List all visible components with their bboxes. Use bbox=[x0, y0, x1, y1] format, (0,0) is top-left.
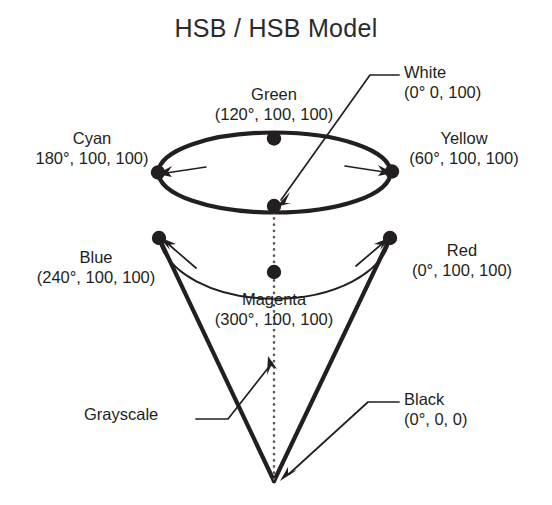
label-magenta-coords: (300°, 100, 100) bbox=[215, 309, 334, 329]
label-blue-name: Blue bbox=[37, 247, 156, 267]
label-green-coords: (120°, 100, 100) bbox=[215, 104, 334, 124]
grayscale-arrowhead bbox=[267, 356, 277, 375]
point-blue bbox=[152, 231, 166, 245]
label-magenta: Magenta (300°, 100, 100) bbox=[215, 289, 334, 329]
white-arrowhead bbox=[276, 192, 291, 207]
label-black: Black (0°, 0, 0) bbox=[404, 389, 467, 429]
label-black-name: Black bbox=[404, 389, 467, 409]
label-cyan: Cyan 180°, 100, 100) bbox=[35, 128, 148, 168]
label-yellow: Yellow (60°, 100, 100) bbox=[409, 128, 518, 168]
label-cyan-coords: 180°, 100, 100) bbox=[35, 148, 148, 168]
label-cyan-name: Cyan bbox=[35, 128, 148, 148]
cone-right-edge bbox=[274, 238, 390, 481]
grayscale-leader-line bbox=[196, 363, 272, 419]
label-grayscale: Grayscale bbox=[84, 404, 158, 424]
label-white: White (0° 0, 100) bbox=[404, 62, 481, 102]
point-magenta bbox=[267, 265, 281, 279]
label-magenta-name: Magenta bbox=[215, 289, 334, 309]
label-yellow-name: Yellow bbox=[409, 128, 518, 148]
label-blue-coords: (240°, 100, 100) bbox=[37, 267, 156, 287]
label-black-coords: (0°, 0, 0) bbox=[404, 409, 467, 429]
label-white-name: White bbox=[404, 62, 481, 82]
label-green: Green (120°, 100, 100) bbox=[215, 84, 334, 124]
hsb-cone-diagram: HSB / HSB Model bbox=[0, 0, 552, 505]
label-white-coords: (0° 0, 100) bbox=[404, 82, 481, 102]
cyan-leader-line bbox=[166, 167, 206, 173]
label-yellow-coords: (60°, 100, 100) bbox=[409, 148, 518, 168]
cone-left-edge bbox=[159, 238, 274, 481]
label-blue: Blue (240°, 100, 100) bbox=[37, 247, 156, 287]
yellow-leader-line bbox=[345, 166, 384, 172]
label-red-name: Red bbox=[412, 240, 512, 260]
point-green bbox=[267, 131, 281, 145]
label-grayscale-name: Grayscale bbox=[84, 404, 158, 424]
label-red: Red (0°, 100, 100) bbox=[412, 240, 512, 280]
label-green-name: Green bbox=[215, 84, 334, 104]
label-red-coords: (0°, 100, 100) bbox=[412, 260, 512, 280]
